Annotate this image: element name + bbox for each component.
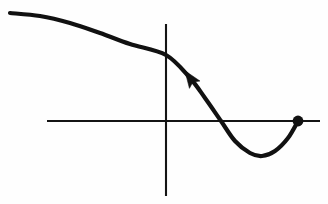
figure-canvas [0,0,328,204]
function-curve [10,13,298,156]
curve-diagram [0,0,328,204]
endpoint-dot [293,116,304,127]
